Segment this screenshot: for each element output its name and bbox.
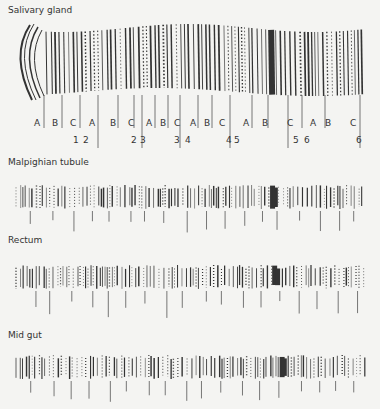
section-label: C <box>219 118 225 128</box>
section-label: C <box>70 118 76 128</box>
section-label: B <box>204 118 210 128</box>
chromosome-number: 5 <box>234 135 240 145</box>
chromosome-number: 5 <box>293 135 299 145</box>
section-label: B <box>110 118 116 128</box>
panel-title-mid-gut: Mid gut <box>8 330 42 340</box>
panel-title-malpighian-tubule: Malpighian tubule <box>8 157 89 167</box>
chromosome-number: 3 <box>140 135 146 145</box>
chromosome-number: 4 <box>185 135 191 145</box>
section-label: C <box>128 118 134 128</box>
chromosome-number: 6 <box>356 135 362 145</box>
chromosome-number: 1 <box>73 135 79 145</box>
section-label: B <box>160 118 166 128</box>
section-label: A <box>310 118 316 128</box>
section-label: A <box>243 118 249 128</box>
section-label: A <box>89 118 95 128</box>
section-label: A <box>146 118 152 128</box>
chromosome-number: 2 <box>83 135 89 145</box>
section-label: B <box>52 118 58 128</box>
chromosome-number: 4 <box>226 135 232 145</box>
chromosome-number: 3 <box>174 135 180 145</box>
section-label: C <box>350 118 356 128</box>
section-label: C <box>174 118 180 128</box>
chromosome-number: 6 <box>304 135 310 145</box>
panel-title-rectum: Rectum <box>8 235 42 245</box>
section-label: B <box>262 118 268 128</box>
rectum-chromosome <box>0 255 380 325</box>
section-label: A <box>34 118 40 128</box>
section-label: B <box>325 118 331 128</box>
section-label: C <box>287 118 293 128</box>
chromosome-number: 2 <box>131 135 137 145</box>
mid-gut-chromosome <box>0 345 380 405</box>
malpighian-tubule-chromosome <box>0 175 380 235</box>
section-label: A <box>190 118 196 128</box>
